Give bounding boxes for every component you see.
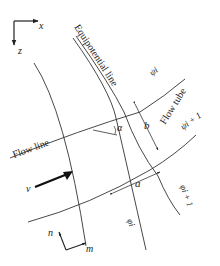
v-label: v <box>26 183 31 194</box>
flow-line-label: Flow line <box>11 136 51 160</box>
equipotential-line-phi-i-plus-1 <box>112 118 156 247</box>
psi-i-label: ψi <box>147 65 160 78</box>
x-axis-label: x <box>38 20 44 31</box>
xz-axes: x z <box>14 20 44 56</box>
phi-i-label: φi <box>125 217 137 228</box>
velocity-arrow: v <box>26 171 73 194</box>
alpha-angle: α <box>93 122 123 135</box>
phi-i-plus-1-label: φi + 1 <box>178 183 195 208</box>
equipotential-line-phi-i <box>34 63 86 246</box>
alpha-label: α <box>117 122 123 133</box>
equipotential-line-right <box>108 46 182 250</box>
nm-axes: n m <box>48 227 93 254</box>
dimension-b: b <box>135 104 158 150</box>
n-axis-label: n <box>48 227 53 238</box>
psi-i-plus-1-label: ψi + 1 <box>178 110 203 131</box>
b-label: b <box>144 119 150 131</box>
equipotential-line-label: Equipotential line <box>72 22 120 88</box>
m-axis-label: m <box>86 243 93 254</box>
a-label: a <box>135 177 141 189</box>
dimension-a: a <box>113 172 160 193</box>
z-axis-label: z <box>17 45 22 56</box>
flow-net-diagram: x z α b a v n m Equipoten <box>0 0 220 266</box>
